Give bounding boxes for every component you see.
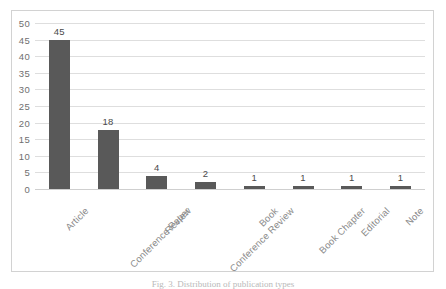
y-axis-tick-label: 0 <box>24 184 30 195</box>
x-label-slot: Note <box>376 201 425 273</box>
bar[interactable]: 18 <box>98 130 119 189</box>
y-axis-tick-label: 10 <box>19 150 30 161</box>
bar-slot: 1 <box>279 23 328 189</box>
y-axis-tick-label: 30 <box>19 84 30 95</box>
x-label-slot: Article <box>35 201 84 273</box>
plot-area: 05101520253035404550 4518421111 <box>35 23 425 199</box>
bar-slot: 45 <box>35 23 84 189</box>
bar[interactable]: 2 <box>195 182 216 189</box>
y-axis-tick-label: 45 <box>19 34 30 45</box>
x-label-slot: Book Chapter <box>279 201 328 273</box>
bar-value-label: 1 <box>300 172 306 183</box>
y-axis-tick-label: 40 <box>19 51 30 62</box>
bar-value-label: 18 <box>103 116 114 127</box>
chart-frame: 05101520253035404550 4518421111 ArticleC… <box>11 10 434 272</box>
bar-value-label: 45 <box>54 26 65 37</box>
bar-value-label: 1 <box>349 172 355 183</box>
bar-value-label: 1 <box>252 172 258 183</box>
x-axis-category-label: Book <box>257 205 281 229</box>
x-label-slot: Editorial <box>328 201 377 273</box>
x-label-slot: Review <box>133 201 182 273</box>
bar-slot: 2 <box>181 23 230 189</box>
bar-slot: 1 <box>328 23 377 189</box>
bar[interactable]: 1 <box>293 186 314 189</box>
bar[interactable]: 1 <box>244 186 265 189</box>
gridline <box>35 189 425 190</box>
bar-slot: 1 <box>376 23 425 189</box>
x-label-slot: Conference Review <box>181 201 230 273</box>
y-axis-tick-label: 15 <box>19 134 30 145</box>
x-axis-category-labels: ArticleConference PaperReviewConference … <box>35 201 425 273</box>
x-axis-category-label: Note <box>403 205 426 228</box>
y-axis-tick-label: 20 <box>19 117 30 128</box>
bar-slot: 4 <box>133 23 182 189</box>
bar-series: 4518421111 <box>35 23 425 189</box>
figure-caption: Fig. 3. Distribution of publication type… <box>0 279 446 289</box>
y-axis-tick-label: 25 <box>19 101 30 112</box>
bar[interactable]: 1 <box>341 186 362 189</box>
bar-value-label: 1 <box>398 172 404 183</box>
bar-slot: 1 <box>230 23 279 189</box>
bar-slot: 18 <box>84 23 133 189</box>
y-axis-tick-label: 50 <box>19 18 30 29</box>
bar[interactable]: 45 <box>49 40 70 189</box>
bar-value-label: 2 <box>203 168 209 179</box>
x-label-slot: Book <box>230 201 279 273</box>
y-axis-tick-label: 5 <box>24 167 30 178</box>
bar[interactable]: 1 <box>390 186 411 189</box>
x-label-slot: Conference Paper <box>84 201 133 273</box>
bar-value-label: 4 <box>154 162 160 173</box>
bar[interactable]: 4 <box>146 176 167 189</box>
y-axis-tick-label: 35 <box>19 67 30 78</box>
